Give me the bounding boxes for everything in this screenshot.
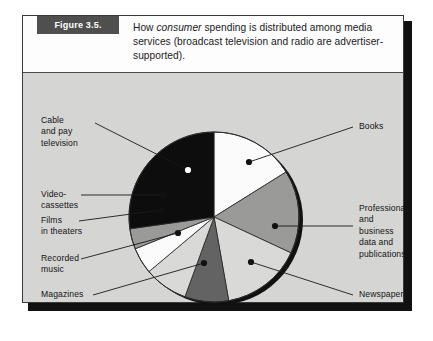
leader-dot-professional bbox=[272, 223, 278, 229]
pie-label-professional-and-business-data: Professional and business data and publi… bbox=[359, 203, 408, 260]
pie-slice-group bbox=[129, 132, 299, 302]
figure-caption-band: Figure 3.5. How consumer spending is dis… bbox=[23, 16, 403, 73]
pie-label-magazines: Magazines bbox=[41, 289, 83, 300]
leader-dot-video bbox=[160, 192, 166, 198]
leader-line-books bbox=[249, 127, 353, 162]
pie-label-cable-and-pay-television: Cable and pay television bbox=[41, 115, 78, 149]
pie-label-newspapers: Newspapers bbox=[359, 289, 408, 300]
leader-dot-films bbox=[158, 207, 164, 213]
figure-caption-text: How consumer spending is distributed amo… bbox=[133, 21, 395, 64]
pie-label-recorded-music: Recorded music bbox=[41, 253, 79, 276]
pie-chart-svg bbox=[23, 73, 405, 304]
leader-dot-books bbox=[246, 159, 252, 165]
pie-label-books: Books bbox=[359, 121, 383, 132]
pie-chart-area: Cable and pay television Video- cassette… bbox=[23, 73, 403, 304]
leader-dot-cable bbox=[185, 167, 191, 173]
leader-dot-magazines bbox=[201, 260, 207, 266]
pie-label-video-cassettes: Video- cassettes bbox=[41, 189, 78, 212]
leader-dot-newspapers bbox=[248, 259, 254, 265]
caption-segment-1: How bbox=[133, 22, 156, 33]
pie-label-films-in-theaters: Films in theaters bbox=[41, 215, 82, 238]
figure-frame: Figure 3.5. How consumer spending is dis… bbox=[22, 15, 404, 303]
caption-emphasis: consumer bbox=[156, 22, 201, 33]
figure-number-badge: Figure 3.5. bbox=[37, 16, 119, 34]
leader-dot-recorded bbox=[175, 230, 181, 236]
